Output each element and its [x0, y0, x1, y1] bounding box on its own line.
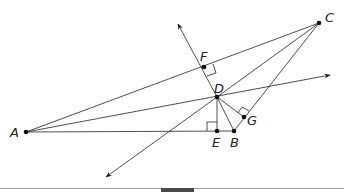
ray-A-through-D: [26, 75, 330, 132]
point-B: [232, 129, 237, 134]
label-G: G: [247, 113, 257, 128]
point-F: [202, 65, 207, 70]
label-C: C: [325, 10, 335, 25]
geometry-diagram: A B C D E F G: [0, 0, 344, 192]
bottom-tab: [161, 188, 194, 192]
segment-AB: [26, 131, 234, 132]
segment-DB: [217, 97, 234, 131]
right-angle-F-marker: [207, 64, 216, 76]
label-A: A: [9, 125, 19, 140]
label-E: E: [212, 135, 221, 150]
point-G: [242, 115, 247, 120]
ray-D-down-left: [106, 97, 217, 177]
point-C: [317, 21, 322, 26]
label-D: D: [214, 81, 224, 96]
point-A: [24, 130, 29, 135]
ray-D-through-F: [178, 24, 217, 97]
label-B: B: [230, 135, 239, 150]
segment-DG: [217, 97, 244, 117]
point-E: [215, 129, 220, 134]
label-F: F: [200, 49, 208, 64]
segment-AC: [26, 23, 319, 132]
segment-CD: [217, 23, 319, 97]
